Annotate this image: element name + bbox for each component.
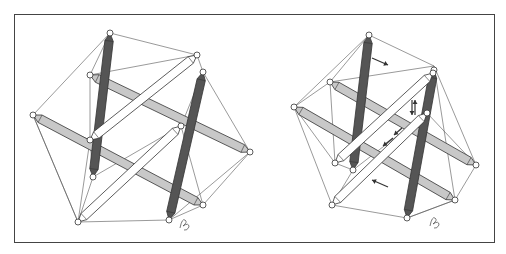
arrowhead-icon (410, 111, 415, 115)
cable (78, 220, 169, 222)
cable (332, 205, 407, 218)
cable (110, 33, 197, 55)
node-joint (430, 70, 436, 76)
node-joint (332, 160, 338, 166)
node-joint (87, 72, 93, 78)
node-joint (87, 137, 93, 143)
node-joint (200, 202, 206, 208)
node-joint (350, 167, 356, 173)
node-joint (194, 52, 200, 58)
right-panel-icosahedron-loaded (291, 32, 479, 228)
node-joint (291, 104, 297, 110)
cable (434, 66, 455, 200)
cable (294, 82, 330, 107)
node-joint (473, 162, 479, 168)
node-joint (327, 79, 333, 85)
artist-signature (180, 220, 189, 231)
node-joint (90, 174, 96, 180)
node-joint (404, 215, 410, 221)
node-joint (329, 202, 335, 208)
arrowhead-icon (413, 100, 418, 104)
node-joint (200, 69, 206, 75)
node-joint (452, 197, 458, 203)
node-joint (247, 149, 253, 155)
left-panel-icosahedron (30, 30, 253, 230)
node-joint (30, 112, 36, 118)
tensegrity-diagram (0, 0, 506, 254)
node-joint (107, 30, 113, 36)
artist-signature (430, 218, 439, 229)
cable (330, 66, 434, 82)
cable (455, 165, 476, 200)
cable (203, 152, 250, 205)
node-joint (75, 219, 81, 225)
node-joint (424, 110, 430, 116)
node-joint (366, 32, 372, 38)
node-joint (178, 123, 184, 129)
cable (330, 82, 335, 163)
node-joint (166, 217, 172, 223)
